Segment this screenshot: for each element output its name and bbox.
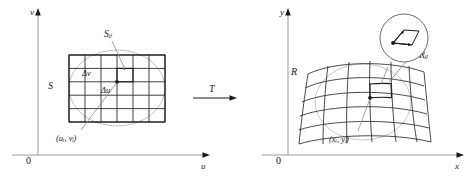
y-axis-label: y [279, 7, 284, 17]
magnifier-circle [380, 14, 428, 62]
image-ellipse-outline [315, 64, 411, 140]
diagram-canvas: v u 0 [0, 0, 476, 189]
right-origin-label: 0 [276, 155, 281, 166]
delta-v-label: Δv [81, 68, 91, 78]
u-axis [12, 152, 210, 158]
point-uv-label: (uᵢ, vⱼ) [56, 133, 76, 143]
x-axis-label: x [454, 161, 459, 171]
subregion-rij [370, 83, 392, 97]
right-panel-xy-plane: y x 0 [262, 7, 464, 171]
x-axis [262, 152, 464, 158]
region-r-label: R [290, 66, 297, 77]
v-axis-label: v [30, 7, 34, 17]
subrectangle-sij-label: Sᵢⱼ [104, 29, 113, 39]
leader-magnifier [381, 67, 388, 84]
sample-point-xy [368, 96, 372, 100]
transform-label: T [209, 83, 216, 94]
figure-transformation-diagram: v u 0 [0, 0, 476, 189]
u-axis-label: u [201, 161, 206, 171]
leader-sij-dot [123, 67, 125, 69]
point-xy-label: (xᵢ, yⱼ) [329, 134, 349, 144]
uv-grid [69, 55, 165, 122]
region-s-label: S [48, 80, 53, 91]
subrectangle-sij [117, 68, 133, 81]
y-axis [285, 8, 291, 155]
delta-u-label: Δu [100, 85, 110, 95]
leader-sij [112, 41, 124, 67]
left-panel-uv-plane: v u 0 [12, 7, 210, 171]
v-axis [35, 8, 41, 155]
transform-arrow-group: T [193, 83, 237, 101]
magnifier-inset [380, 14, 428, 62]
inset-base-point [391, 41, 395, 45]
leader-point-xy [358, 100, 370, 131]
xy-warped-grid [299, 61, 431, 144]
left-origin-label: 0 [26, 155, 31, 166]
sample-point-uv [115, 80, 119, 84]
